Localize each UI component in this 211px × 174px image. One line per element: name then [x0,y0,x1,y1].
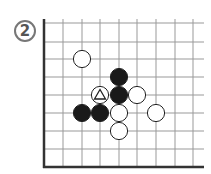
black-stone [110,86,127,103]
black-stone [73,104,90,121]
white-stone [73,50,90,67]
black-stone [110,68,127,85]
black-stone [91,104,108,121]
white-stone [110,122,127,139]
white-stone [128,86,145,103]
white-stone [147,104,164,121]
go-board [0,0,211,174]
white-stone [110,104,127,121]
